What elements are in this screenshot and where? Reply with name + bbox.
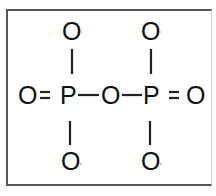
atom-left-oxygen: O: [18, 81, 37, 109]
atom-left-phosphorus: P: [60, 81, 77, 109]
radical-dot-icon: [160, 163, 162, 165]
atom-right-oxygen: O: [186, 81, 205, 109]
radical-dot-icon: [159, 31, 161, 33]
atom-top-left-oxygen: O: [62, 17, 81, 45]
atom-bridge-oxygen: O: [101, 81, 120, 109]
atom-right-phosphorus: P: [143, 81, 160, 109]
radical-dot-icon: [80, 163, 82, 165]
phosphorus-oxide-structure: O O O P O P O O O: [0, 0, 216, 196]
atom-bottom-right-oxygen: O: [141, 147, 160, 175]
atom-top-right-oxygen: O: [141, 17, 160, 45]
atom-bottom-left-oxygen: O: [61, 147, 80, 175]
radical-dot-icon: [80, 31, 82, 33]
